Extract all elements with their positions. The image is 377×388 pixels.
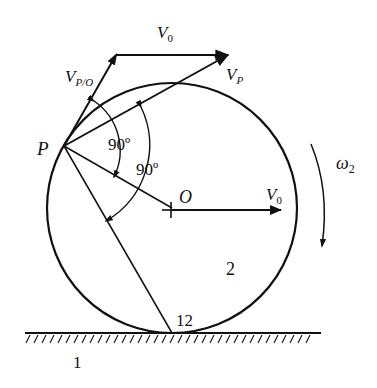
label-body-ground: 1 — [73, 353, 82, 372]
label-v0-center: V0 — [266, 185, 282, 206]
label-body-wheel: 2 — [226, 259, 235, 279]
label-contact-point: 12 — [176, 311, 193, 330]
label-center-o: O — [179, 187, 192, 207]
label-v0-top: V0 — [157, 23, 173, 44]
omega-rotation-arrow — [311, 144, 324, 246]
label-angle-2: 90º — [136, 160, 158, 179]
vp-arrow — [64, 55, 228, 146]
label-vp: VP — [226, 65, 243, 86]
ground — [25, 333, 321, 343]
label-angle-1: 90º — [108, 135, 130, 154]
label-omega: ω2 — [336, 153, 355, 176]
rolling-wheel-diagram: V0 VP/O VP P 90º 90º O V0 ω2 2 12 1 — [0, 0, 377, 388]
ground-hatching — [26, 335, 310, 343]
label-point-p: P — [36, 138, 49, 159]
label-vpo: VP/O — [65, 67, 93, 88]
